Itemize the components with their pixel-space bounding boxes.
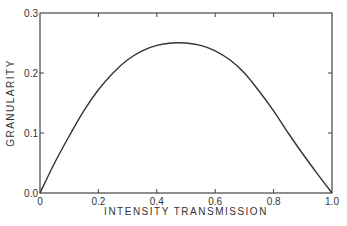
- y-tick-label: 0.2: [24, 68, 38, 79]
- y-axis-title: GRANULARITY: [5, 59, 16, 147]
- axis-ticks: [40, 13, 332, 193]
- x-tick-label: 1.0: [325, 196, 339, 207]
- x-tick-label: 0.8: [267, 196, 281, 207]
- y-tick-label: 0.1: [24, 128, 38, 139]
- y-tick-labels: 0.00.10.20.3: [24, 8, 38, 199]
- x-tick-label: 0: [37, 196, 43, 207]
- x-axis-title: INTENSITY TRANSMISSION: [104, 206, 268, 217]
- y-tick-label: 0.3: [24, 8, 38, 19]
- plot-frame: [40, 13, 332, 193]
- granularity-curve: [40, 43, 332, 193]
- granularity-chart: 00.20.40.60.81.0 0.00.10.20.3 INTENSITY …: [0, 0, 347, 226]
- y-tick-label: 0.0: [24, 188, 38, 199]
